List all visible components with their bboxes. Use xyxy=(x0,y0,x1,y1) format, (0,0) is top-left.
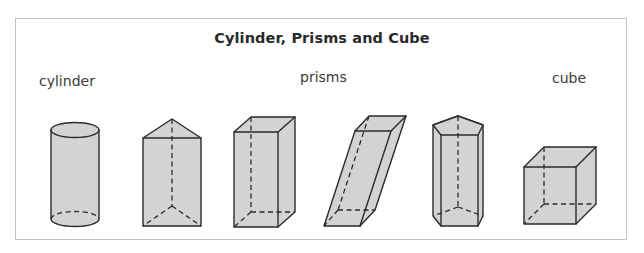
oblique-prism-shape xyxy=(324,116,406,226)
cube-shape xyxy=(524,147,596,224)
cylinder-shape xyxy=(51,123,99,227)
triangular-prism-shape xyxy=(143,119,201,226)
rectangular-prism-shape xyxy=(234,117,295,227)
pentagonal-prism-shape xyxy=(433,116,483,226)
shapes-canvas xyxy=(0,0,644,253)
